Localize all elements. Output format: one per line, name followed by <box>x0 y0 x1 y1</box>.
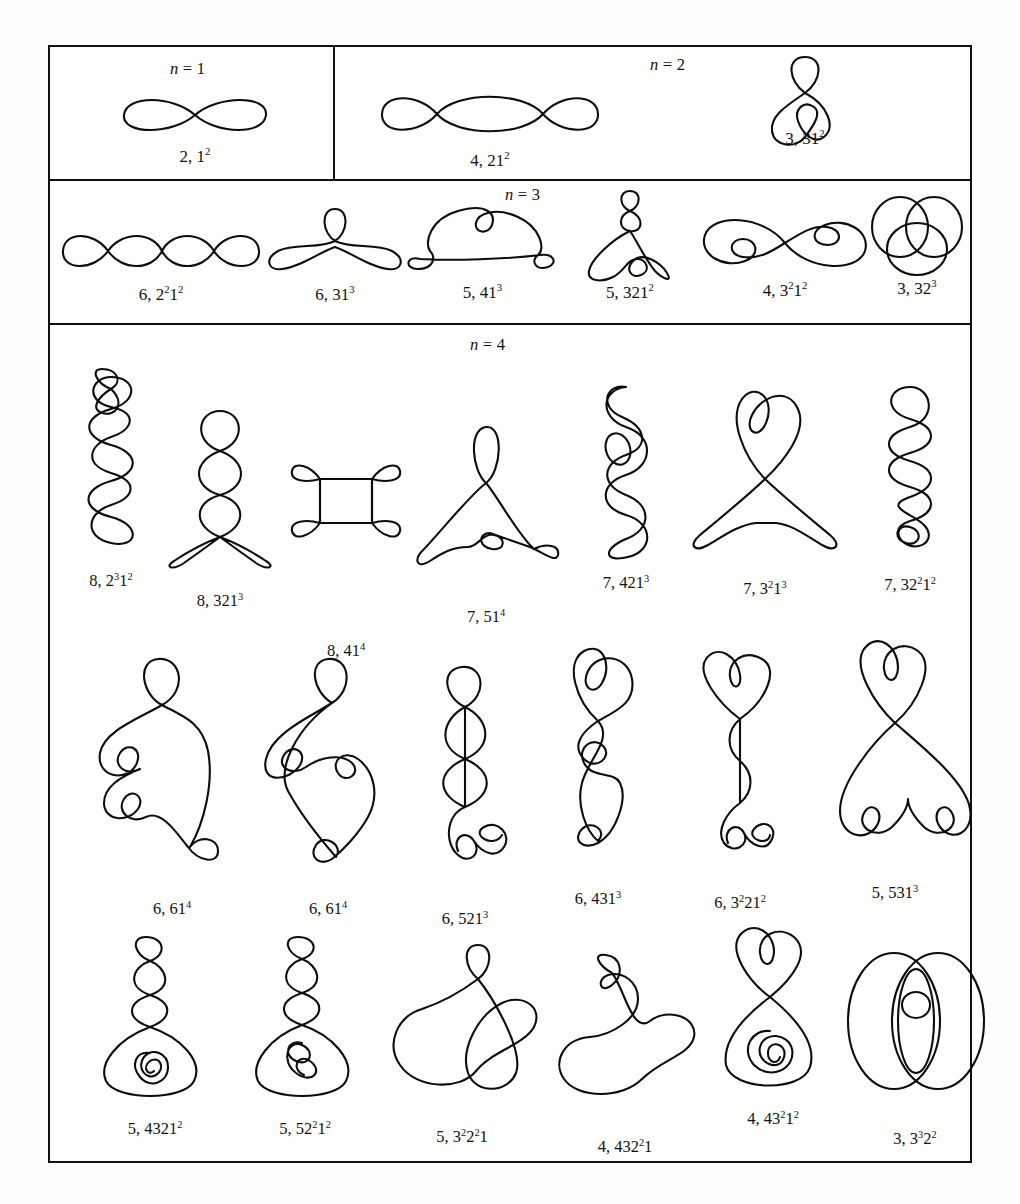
section-title-n4-eq: = <box>483 335 493 354</box>
cell-curve-7-51q: 7, 514 <box>406 419 566 617</box>
doodle-7-32sq1sq <box>850 379 970 563</box>
fig-curve-7-51q <box>406 419 566 571</box>
fig-curve-4-432sq1 <box>550 951 700 1103</box>
doodle-6-3sq21sq <box>670 647 810 867</box>
fig-curve-6-3sq21sq <box>670 647 810 867</box>
band-n4: n = 4 8, 2312 <box>50 323 970 1163</box>
cell-curve-8-2cu1sq: 8, 2312 <box>56 367 166 617</box>
fig-curve-7-3sq1cu <box>680 383 850 563</box>
doodle-3-32cu <box>862 193 972 281</box>
caption-curve-4-21sq: 4, 212 <box>375 151 605 171</box>
fig-curve-5-41cu <box>400 199 565 283</box>
cell-curve-3-3cu2sq: 3, 3322 <box>840 943 990 1143</box>
fig-curve-6-2sq1sq <box>56 223 266 279</box>
fig-curve-5-52sq1sq <box>230 933 380 1101</box>
fig-curve-5-321sq <box>555 187 705 285</box>
caption-curve-8-321cu: 8, 3213 <box>160 591 280 611</box>
section-title-n2-var: n <box>650 55 658 74</box>
caption-curve-6-521cu: 6, 5213 <box>400 909 530 929</box>
doodle-5-321sq <box>555 187 705 285</box>
doodle-6-61q-a <box>92 653 252 871</box>
caption-curve-5-321sq: 5, 3212 <box>555 283 705 303</box>
caption-curve-5-3sq2sq1: 5, 32221 <box>382 1127 542 1147</box>
cell-curve-6-61q-a: 6, 614 <box>92 653 252 923</box>
caption-curve-7-51q: 7, 514 <box>406 607 566 627</box>
caption-curve-8-2cu1sq: 8, 2312 <box>56 571 166 591</box>
cell-curve-8-321cu: 8, 3213 <box>160 403 280 617</box>
caption-curve-6-61q-a: 6, 614 <box>92 899 252 919</box>
section-title-n2-eq: = <box>663 55 673 74</box>
fig-curve-3-3cu2sq <box>840 943 990 1101</box>
cell-curve-6-3sq21sq: 6, 32212 <box>670 647 810 923</box>
caption-curve-7-3sq1cu: 7, 3213 <box>680 579 850 599</box>
doodle-5-531cu <box>820 637 970 865</box>
caption-curve-6-2sq1sq: 6, 2212 <box>56 285 266 305</box>
cell-curve-6-2sq1sq: 6, 2212 <box>56 223 266 323</box>
cell-curve-5-321sq: 5, 3212 <box>555 187 705 323</box>
caption-curve-5-531cu: 5, 5313 <box>820 883 970 903</box>
doodle-5-4321sq <box>80 933 230 1101</box>
section-title-n1-eq: = <box>183 59 193 78</box>
doodle-4-43sq1sq <box>698 923 848 1099</box>
cell-curve-5-41cu: 5, 413 <box>400 199 565 323</box>
fig-curve-6-431cu <box>528 643 668 869</box>
doodle-4-432sq1 <box>550 951 700 1103</box>
doodle-6-61q-b <box>248 653 408 871</box>
caption-curve-4-432sq1: 4, 43221 <box>550 1137 700 1157</box>
doodle-3-3cu2sq <box>840 943 990 1101</box>
fig-curve-5-531cu <box>820 637 970 865</box>
caption-curve-6-3sq21sq: 6, 32212 <box>670 893 810 913</box>
caption-curve-3-3cu2sq: 3, 3322 <box>840 1129 990 1149</box>
section-title-n2-val: 2 <box>677 55 685 74</box>
fig-curve-3-32cu <box>862 193 972 281</box>
cell-curve-4-432sq1: 4, 43221 <box>550 951 700 1143</box>
caption-curve-4-3sq1sq: 4, 3212 <box>695 281 875 301</box>
caption-curve-7-421cu: 7, 4213 <box>566 573 686 593</box>
caption-curve-3-31sq: 3, 312 <box>710 129 900 149</box>
caption-curve-5-41cu: 5, 413 <box>400 283 565 303</box>
band-n1-n2: n = 1 2, 12 n = 2 <box>50 47 970 179</box>
doodle-6-431cu <box>528 643 668 869</box>
cell-curve-5-531cu: 5, 5313 <box>820 637 970 923</box>
doodle-8-321cu <box>160 403 280 571</box>
cell-curve-6-31cu: 6, 313 <box>260 203 410 323</box>
cell-curve-3-32cu: 3, 323 <box>862 193 972 323</box>
fig-curve-8-41q <box>286 453 406 549</box>
doodle-6-31cu <box>260 203 410 283</box>
section-title-n2: n = 2 <box>650 55 685 75</box>
cell-curve-5-3sq2sq1: 5, 32221 <box>382 941 542 1143</box>
caption-curve-5-52sq1sq: 5, 52212 <box>230 1119 380 1139</box>
doodle-8-2cu1sq <box>56 367 166 557</box>
doodle-5-41cu <box>400 199 565 283</box>
band-n3: n = 3 6, 2212 6, 3 <box>50 179 970 323</box>
fig-curve-6-61q-a <box>92 653 252 871</box>
section-title-n1-var: n <box>170 59 178 78</box>
doodle-7-421cu <box>566 377 686 563</box>
caption-curve-2-1sq: 2, 12 <box>110 147 280 167</box>
caption-curve-7-32sq1sq: 7, 32212 <box>850 575 970 595</box>
doodle-8-41q <box>286 453 406 549</box>
fig-curve-7-32sq1sq <box>850 379 970 563</box>
doodle-2-1sq <box>110 89 280 141</box>
diagram-table: n = 1 2, 12 n = 2 <box>48 45 972 1163</box>
cell-curve-4-21sq: 4, 212 <box>375 85 605 179</box>
caption-curve-5-4321sq: 5, 43212 <box>80 1119 230 1139</box>
cell-curve-5-52sq1sq: 5, 52212 <box>230 933 380 1143</box>
cell-curve-6-521cu: 6, 5213 <box>400 663 530 923</box>
cell-curve-7-3sq1cu: 7, 3213 <box>680 383 850 617</box>
doodle-5-3sq2sq1 <box>382 941 542 1101</box>
fig-curve-6-61q-b <box>248 653 408 871</box>
section-title-n4-var: n <box>470 335 478 354</box>
doodle-6-521cu <box>400 663 530 869</box>
cell-curve-3-31sq: 3, 312 <box>710 53 900 179</box>
cell-curve-4-3sq1sq: 4, 3212 <box>695 203 875 323</box>
caption-curve-4-43sq1sq: 4, 43212 <box>698 1109 848 1129</box>
caption-curve-6-431cu: 6, 4313 <box>528 889 668 909</box>
section-title-n4: n = 4 <box>470 335 505 355</box>
fig-curve-4-43sq1sq <box>698 923 848 1099</box>
doodle-5-52sq1sq <box>230 933 380 1101</box>
cell-curve-6-431cu: 6, 4313 <box>528 643 668 923</box>
fig-curve-2-1sq <box>110 89 280 141</box>
caption-curve-6-61q-b: 6, 614 <box>248 899 408 919</box>
caption-curve-3-32cu: 3, 323 <box>862 279 972 299</box>
